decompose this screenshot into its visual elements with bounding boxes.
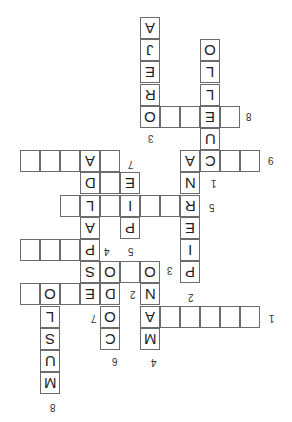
cell-letter: C: [105, 332, 116, 347]
crossword-cell-filled[interactable]: S: [80, 261, 100, 283]
crossword-cell-empty[interactable]: [220, 106, 240, 128]
crossword-cell-filled[interactable]: R: [140, 84, 160, 106]
crossword-cell-filled[interactable]: R: [180, 195, 200, 217]
crossword-cell-empty[interactable]: [60, 195, 80, 217]
crossword-cell-empty[interactable]: [200, 306, 220, 328]
crossword-cell-filled[interactable]: O: [140, 106, 160, 128]
cell-letter: P: [185, 265, 195, 280]
crossword-cell-filled[interactable]: L: [200, 61, 220, 83]
crossword-cell-empty[interactable]: [20, 239, 40, 261]
crossword-cell-empty[interactable]: [140, 195, 160, 217]
crossword-cell-empty[interactable]: [160, 306, 180, 328]
crossword-cell-empty[interactable]: [100, 195, 120, 217]
cell-letter: L: [46, 310, 54, 325]
cell-letter: A: [145, 21, 155, 36]
crossword-cell-empty[interactable]: [60, 283, 80, 305]
crossword-cell-filled[interactable]: O: [100, 306, 120, 328]
cell-letter: N: [185, 176, 196, 191]
clue-number: 5: [128, 246, 134, 256]
cell-letter: O: [104, 265, 116, 280]
cell-letter: O: [44, 287, 56, 302]
crossword-cell-empty[interactable]: [60, 239, 80, 261]
crossword-cell-filled[interactable]: O: [140, 261, 160, 283]
crossword-cell-empty[interactable]: [160, 195, 180, 217]
cell-letter: U: [45, 354, 56, 369]
cell-letter: S: [85, 265, 95, 280]
clue-number: 3: [167, 265, 173, 275]
crossword-cell-filled[interactable]: D: [100, 283, 120, 305]
clue-number: 4: [151, 357, 157, 367]
crossword-cell-filled[interactable]: L: [40, 306, 60, 328]
crossword-cell-filled[interactable]: A: [80, 217, 100, 239]
crossword-cell-filled[interactable]: I: [120, 195, 140, 217]
crossword-cell-filled[interactable]: P: [80, 239, 100, 261]
crossword-cell-filled[interactable]: N: [140, 283, 160, 305]
cell-letter: L: [86, 199, 94, 214]
crossword-cell-filled[interactable]: O: [40, 283, 60, 305]
crossword-cell-filled[interactable]: N: [180, 172, 200, 194]
cell-letter: J: [146, 43, 154, 58]
clue-number: 7: [91, 313, 97, 323]
crossword-cell-empty[interactable]: [20, 150, 40, 172]
crossword-cell-empty[interactable]: [160, 106, 180, 128]
crossword-cell-empty[interactable]: [220, 306, 240, 328]
crossword-cell-empty[interactable]: [40, 239, 60, 261]
crossword-cell-filled[interactable]: M: [140, 328, 160, 350]
crossword-cell-empty[interactable]: [240, 150, 260, 172]
crossword-cell-filled[interactable]: P: [180, 261, 200, 283]
crossword-cell-filled[interactable]: I: [180, 239, 200, 261]
cell-letter: S: [45, 332, 55, 347]
cell-letter: L: [206, 65, 214, 80]
crossword-cell-filled[interactable]: L: [80, 195, 100, 217]
crossword-cell-filled[interactable]: C: [200, 150, 220, 172]
crossword-cell-empty[interactable]: [100, 150, 120, 172]
cell-letter: M: [144, 332, 157, 347]
cell-letter: R: [185, 199, 196, 214]
crossword-cell-empty[interactable]: [100, 172, 120, 194]
cell-letter: E: [205, 110, 215, 125]
cell-letter: D: [85, 176, 96, 191]
crossword-cell-filled[interactable]: P: [120, 217, 140, 239]
cell-letter: I: [128, 199, 132, 214]
crossword-cell-filled[interactable]: U: [200, 128, 220, 150]
crossword-cell-empty[interactable]: [60, 150, 80, 172]
crossword-cell-empty[interactable]: [180, 106, 200, 128]
clue-number: 7: [128, 159, 134, 169]
crossword-cell-filled[interactable]: A: [140, 306, 160, 328]
cell-letter: R: [145, 88, 156, 103]
crossword-cell-empty[interactable]: [20, 283, 40, 305]
crossword-cell-filled[interactable]: A: [80, 150, 100, 172]
cell-letter: A: [85, 154, 95, 169]
cell-letter: D: [105, 287, 116, 302]
crossword-cell-filled[interactable]: E: [80, 283, 100, 305]
clue-number: 8: [246, 111, 252, 121]
crossword-cell-filled[interactable]: E: [140, 61, 160, 83]
crossword-cell-filled[interactable]: S: [40, 328, 60, 350]
crossword-cell-filled[interactable]: D: [80, 172, 100, 194]
crossword-cell-empty[interactable]: [220, 150, 240, 172]
crossword-cell-filled[interactable]: C: [100, 328, 120, 350]
crossword-cell-filled[interactable]: U: [40, 350, 60, 372]
cell-letter: E: [85, 287, 95, 302]
cell-letter: A: [85, 221, 95, 236]
crossword-cell-empty[interactable]: [180, 306, 200, 328]
cell-letter: E: [125, 176, 135, 191]
cell-letter: O: [144, 110, 156, 125]
crossword-cell-empty[interactable]: [240, 306, 260, 328]
crossword-cell-filled[interactable]: M: [40, 372, 60, 394]
crossword-cell-filled[interactable]: O: [200, 39, 220, 61]
clue-number: 6: [112, 356, 118, 366]
crossword-cell-filled[interactable]: L: [200, 84, 220, 106]
crossword-cell-filled[interactable]: A: [180, 150, 200, 172]
crossword-cell-empty[interactable]: [40, 150, 60, 172]
crossword-cell-filled[interactable]: J: [140, 39, 160, 61]
crossword-cell-filled[interactable]: A: [140, 17, 160, 39]
crossword-cell-filled[interactable]: E: [200, 106, 220, 128]
crossword-cell-empty[interactable]: [120, 261, 140, 283]
crossword-cell-filled[interactable]: O: [100, 261, 120, 283]
cell-letter: L: [206, 88, 214, 103]
clue-number: 8: [50, 402, 56, 412]
crossword-cell-filled[interactable]: E: [120, 172, 140, 194]
cell-letter: E: [185, 221, 195, 236]
crossword-cell-filled[interactable]: E: [180, 217, 200, 239]
